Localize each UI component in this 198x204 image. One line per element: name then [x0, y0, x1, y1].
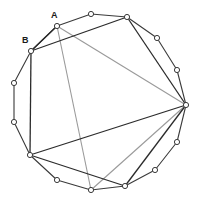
vertex-marker-v2 [154, 35, 159, 40]
vertex-marker-v10 [27, 152, 32, 157]
vertex-markers-group [11, 11, 188, 192]
vertex-marker-v1 [124, 14, 129, 19]
polygon-outline-path [14, 14, 186, 190]
vertex-marker-v7 [122, 183, 127, 188]
dark-chord-5 [127, 17, 186, 105]
dark-chord-2 [30, 51, 31, 155]
dark-chord-1 [31, 17, 127, 51]
polygon-outline [14, 14, 186, 190]
dark-chord-3 [30, 105, 186, 155]
light-chord-2 [91, 105, 186, 190]
vertex-marker-v8 [88, 187, 93, 192]
vertex-marker-v3 [174, 67, 179, 72]
dark-chord-4 [30, 155, 125, 186]
dark-chord-0 [31, 26, 57, 51]
light-chord-0 [57, 26, 186, 105]
vertex-marker-v6 [152, 167, 157, 172]
vertex-marker-v12 [11, 80, 16, 85]
vertex-marker-v9 [54, 177, 59, 182]
vertex-marker-v5 [174, 139, 179, 144]
vertex-marker-v13 [28, 48, 33, 53]
light-chords-group [57, 26, 186, 190]
vertex-labels-group: AB [22, 10, 58, 45]
dark-chord-6 [125, 105, 186, 186]
vertex-label-a: A [51, 10, 58, 20]
vertex-marker-v4 [183, 102, 188, 107]
figure-container: AB [0, 0, 198, 204]
vertex-marker-v14 [54, 23, 59, 28]
vertex-label-b: B [22, 35, 29, 45]
vertex-marker-v11 [11, 119, 16, 124]
vertex-marker-v0 [88, 11, 93, 16]
polygon-chord-diagram: AB [0, 0, 198, 204]
